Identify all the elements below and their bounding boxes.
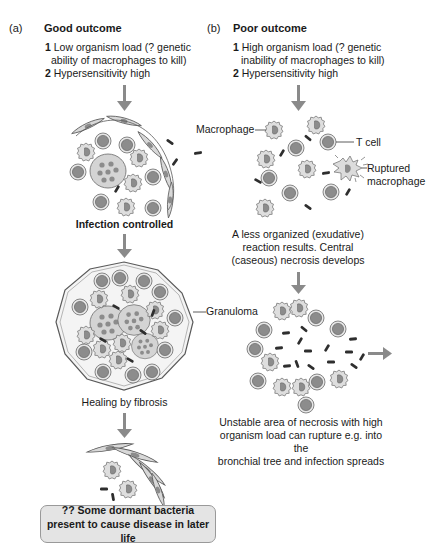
caption-line: bronchial tree and infection spreads [216,455,386,468]
label-ruptured-line2: macrophage [367,175,425,188]
diagram-graphics [0,0,443,556]
granuloma [56,262,206,390]
caption-infection-controlled: Infection controlled [62,218,187,231]
arrow-b2 [291,272,306,294]
label-ruptured-macrophage: Ruptured macrophage [367,162,425,188]
note-line-2: present to cause disease in later life [41,517,215,545]
caption-exudative: A less organized (exudative) reaction re… [228,228,368,267]
dormant-bacteria-note: ?? Some dormant bacteria present to caus… [40,505,216,543]
caption-line: organism load can rupture e.g. into the [216,429,386,455]
label-macrophage: Macrophage [196,123,254,136]
arrow-a2 [117,234,132,258]
stage-a1-cells [70,113,202,218]
note-line-1: ?? Some dormant bacteria [41,503,215,517]
caption-line: A less organized (exudative) [228,228,368,241]
caption-line: reaction results. Central [228,241,368,254]
arrow-a3 [117,413,132,438]
label-granuloma: Granuloma [206,305,258,318]
stage-b2-cells [247,299,365,413]
label-t-cell: T cell [356,136,381,149]
stage-b1-cells [254,116,368,217]
caption-line: (caseous) necrosis develops [228,254,368,267]
arrow-a1 [117,85,132,111]
fibrosis-scar [86,441,167,508]
caption-healing-fibrosis: Healing by fibrosis [62,396,187,409]
arrow-spread [368,347,392,360]
arrow-b1 [291,85,306,111]
label-ruptured-line1: Ruptured [367,162,425,175]
ruptured-macrophage [333,155,368,182]
caption-line: Unstable area of necrosis with high [216,416,386,429]
caption-unstable-necrosis: Unstable area of necrosis with high orga… [216,416,386,468]
